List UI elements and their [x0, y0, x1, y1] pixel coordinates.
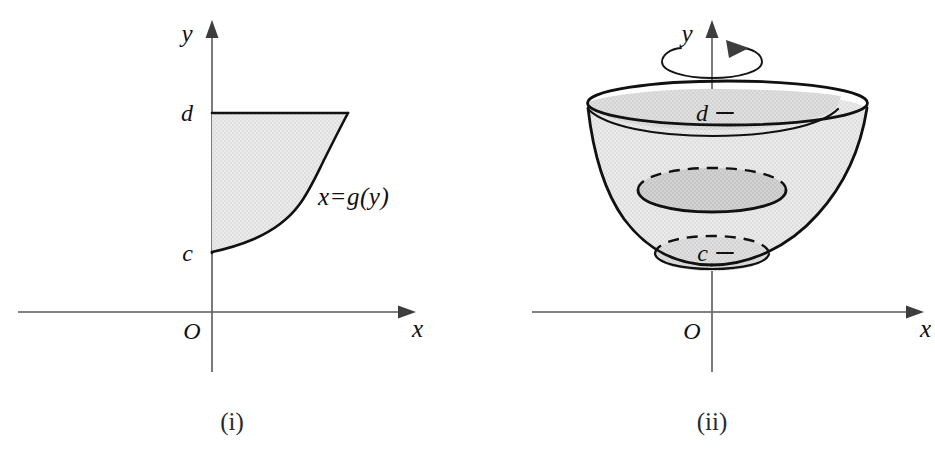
panel-i-x-axis-label: x — [411, 315, 423, 342]
panel-i-curve-label: x=g(y) — [317, 183, 389, 211]
panel-ii-y-axis-label: y — [678, 20, 693, 47]
panel-ii-x-axis-label: x — [919, 315, 931, 342]
panel-i-y-axis-label: y — [178, 20, 193, 47]
figure-root: d c x=g(y) O x y (i) — [0, 0, 935, 455]
panel-ii-origin-label: O — [683, 318, 700, 344]
panel-i-caption: (i) — [220, 408, 244, 436]
panel-i-origin-label: O — [183, 318, 200, 344]
panel-i-label-d: d — [181, 100, 194, 126]
panel-ii-x-axis — [532, 306, 924, 319]
panel-ii: d c O x y (ii) — [532, 20, 931, 436]
panel-ii-caption: (ii) — [697, 408, 728, 436]
panel-i-label-c: c — [182, 240, 193, 266]
figure-canvas: d c x=g(y) O x y (i) — [0, 0, 935, 455]
panel-i: d c x=g(y) O x y (i) — [18, 20, 423, 436]
panel-i-x-axis — [18, 306, 416, 319]
panel-ii-label-d: d — [696, 100, 709, 126]
panel-ii-label-c: c — [697, 240, 708, 266]
